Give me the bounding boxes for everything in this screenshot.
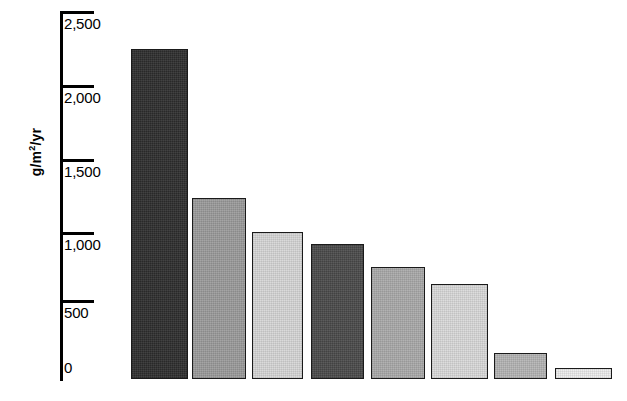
bar-chart: g/m2/yr 2,500 2,000 1,500 1,000 500 0: [0, 0, 627, 401]
bar-5: [371, 267, 425, 379]
bar-7: [494, 353, 547, 379]
plot-area: [0, 0, 627, 401]
bar-2: [192, 198, 246, 379]
bar-3: [252, 232, 303, 379]
bar-1: [131, 49, 188, 379]
bar-4: [311, 244, 364, 379]
bar-8: [555, 368, 612, 379]
bar-6: [431, 284, 488, 379]
